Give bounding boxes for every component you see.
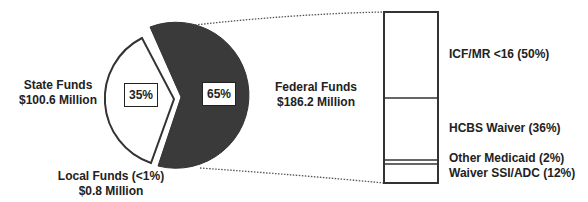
federal-funds-amount: $186.2 Million bbox=[266, 95, 366, 110]
federal-percent-box: 65% bbox=[202, 82, 236, 106]
bar-label-hcbs: HCBS Waiver (36%) bbox=[449, 121, 561, 136]
local-funds-label: Local Funds (<1%) $0.8 Million bbox=[56, 169, 166, 199]
bar-label-other: Other Medicaid (2%) bbox=[449, 151, 564, 166]
connector-bottom bbox=[200, 168, 384, 183]
connector-top bbox=[186, 12, 383, 26]
bar-label-icf: ICF/MR <16 (50%) bbox=[449, 47, 549, 62]
local-funds-amount: $0.8 Million bbox=[56, 184, 166, 199]
state-funds-amount: $100.6 Million bbox=[18, 93, 98, 108]
bar-label-waiver: Waiver SSI/ADC (12%) bbox=[449, 166, 575, 181]
federal-funds-label: Federal Funds $186.2 Million bbox=[266, 80, 366, 110]
state-percent-box: 35% bbox=[124, 83, 158, 107]
local-funds-name: Local Funds (<1%) bbox=[56, 169, 166, 184]
state-funds-name: State Funds bbox=[18, 78, 98, 93]
state-funds-label: State Funds $100.6 Million bbox=[18, 78, 98, 108]
federal-funds-name: Federal Funds bbox=[266, 80, 366, 95]
